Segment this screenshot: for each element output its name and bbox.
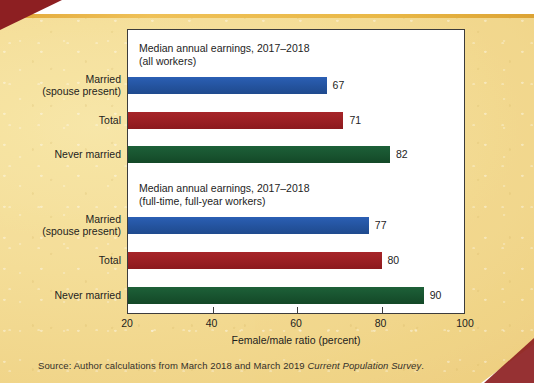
- x-tick-60: [297, 307, 298, 313]
- category-label-married: Married (spouse present): [11, 73, 121, 97]
- x-tick-label-60: 60: [276, 317, 316, 329]
- bar-p0-blue: [128, 77, 327, 94]
- bar-value-label: 71: [349, 112, 361, 129]
- x-tick-label-100: 100: [445, 317, 485, 329]
- category-label-never-married: Never married: [11, 148, 121, 160]
- x-axis-title: Female/male ratio (percent): [127, 334, 465, 346]
- category-label-total: Total: [11, 254, 121, 266]
- source-prefix: Source: Author calculations from March 2…: [38, 360, 307, 371]
- bar-value-label: 80: [388, 252, 400, 269]
- bar-value-label: 90: [430, 287, 442, 304]
- bar-value-label: 82: [396, 146, 408, 163]
- bar-value-label: 67: [333, 77, 345, 94]
- source-suffix: .: [421, 360, 424, 371]
- bar-value-label: 77: [375, 217, 387, 234]
- bar-p0-green: [128, 146, 390, 163]
- plot-area: Median annual earnings, 2017–2018 (all w…: [127, 29, 465, 314]
- category-label-married: Married (spouse present): [11, 213, 121, 237]
- source-publication: Current Population Survey: [307, 360, 421, 371]
- x-tick-80: [382, 307, 383, 313]
- x-tick-label-80: 80: [361, 317, 401, 329]
- card-top-rule: [0, 14, 534, 18]
- bar-p1-red: [128, 252, 382, 269]
- panel-title-all-workers: Median annual earnings, 2017–2018 (all w…: [139, 42, 309, 68]
- category-label-never-married: Never married: [11, 289, 121, 301]
- source-note: Source: Author calculations from March 2…: [38, 360, 424, 371]
- x-tick-label-20: 20: [107, 317, 147, 329]
- figure-container: Married (spouse present)TotalNever marri…: [0, 0, 534, 383]
- panel-title-fulltime-workers: Median annual earnings, 2017–2018 (full-…: [139, 182, 309, 208]
- x-tick-label-40: 40: [192, 317, 232, 329]
- category-label-total: Total: [11, 114, 121, 126]
- bar-p1-green: [128, 287, 424, 304]
- bar-p1-blue: [128, 217, 369, 234]
- x-tick-40: [213, 307, 214, 313]
- bar-p0-red: [128, 112, 343, 129]
